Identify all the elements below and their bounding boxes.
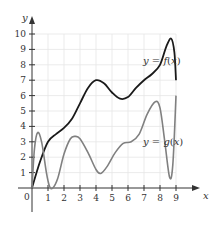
y-tick-label: 8 bbox=[20, 60, 26, 70]
y-tick-label: 1 bbox=[20, 168, 26, 178]
y-tick-label: 3 bbox=[20, 137, 26, 147]
y-tick-label: 10 bbox=[15, 29, 27, 39]
y-tick-label: 2 bbox=[20, 152, 26, 162]
x-tick-label: 9 bbox=[173, 193, 179, 203]
x-tick-label: 7 bbox=[141, 193, 147, 203]
y-tick-label: 7 bbox=[20, 75, 26, 85]
x-tick-label: 8 bbox=[157, 193, 163, 203]
y-tick-label: 5 bbox=[20, 106, 26, 116]
y-tick-label: 6 bbox=[20, 91, 26, 101]
axes: x y 0 bbox=[18, 12, 209, 212]
f-curve-label: y = f(x) bbox=[142, 55, 181, 66]
x-axis-label: x bbox=[203, 190, 209, 201]
y-tick-label: 4 bbox=[20, 121, 26, 131]
x-tick-label: 1 bbox=[45, 193, 51, 203]
g-curve-label: y = g(x) bbox=[142, 136, 183, 147]
x-tick-label: 6 bbox=[125, 193, 131, 203]
x-tick-label: 4 bbox=[93, 193, 99, 203]
y-axis-label: y bbox=[21, 12, 28, 23]
chart-canvas: x y 0 12345678912345678910 y = f(x) y = … bbox=[0, 0, 214, 225]
x-tick-label: 5 bbox=[109, 193, 115, 203]
x-tick-label: 3 bbox=[77, 193, 83, 203]
x-axis-arrow-icon bbox=[192, 185, 200, 191]
origin-label: 0 bbox=[24, 192, 30, 202]
y-tick-label: 9 bbox=[20, 44, 26, 54]
x-tick-label: 2 bbox=[61, 193, 67, 203]
y-axis-arrow-icon bbox=[29, 16, 35, 24]
